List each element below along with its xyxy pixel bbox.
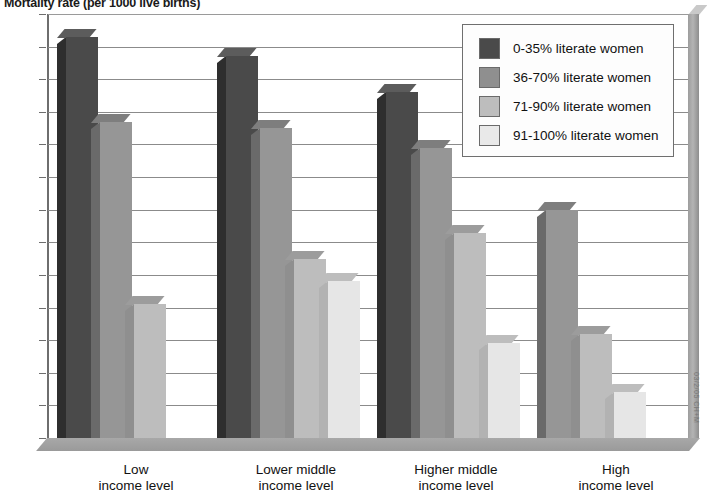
bar — [328, 281, 360, 438]
plot-floor — [36, 438, 700, 451]
bar — [134, 304, 166, 438]
y-tick-mark — [39, 14, 46, 15]
legend-swatch — [479, 38, 500, 59]
legend-item: 91-100% literate women — [479, 121, 673, 150]
bar-side — [125, 304, 134, 445]
x-axis-label-line: Higher middle — [371, 462, 541, 478]
bar-side — [217, 56, 226, 445]
x-axis-label-line: income level — [51, 478, 221, 493]
x-axis-label: Highincome level — [531, 462, 701, 493]
bar — [614, 392, 646, 438]
bar-face — [614, 392, 646, 438]
y-axis-line — [47, 14, 49, 438]
legend-label: 91-100% literate women — [513, 128, 659, 143]
y-tick-mark — [39, 177, 46, 178]
x-axis-label-line: income level — [371, 478, 541, 493]
legend-label: 0-35% literate women — [513, 41, 644, 56]
x-axis-label: Lower middleincome level — [211, 462, 381, 493]
legend-swatch — [479, 125, 500, 146]
chart-title: Mortality rate (per 1000 live births) — [4, 0, 200, 10]
bar-side — [479, 343, 488, 445]
x-axis-label-line: income level — [531, 478, 701, 493]
y-tick-mark — [39, 340, 46, 341]
x-axis-label-line: High — [531, 462, 701, 478]
bar-face — [488, 343, 520, 438]
bar-side — [251, 128, 260, 445]
legend-item: 36-70% literate women — [479, 63, 673, 92]
x-axis-label-line: income level — [211, 478, 381, 493]
y-tick-mark — [39, 79, 46, 80]
y-tick-mark — [39, 242, 46, 243]
bar-side — [319, 281, 328, 445]
bar-side — [571, 334, 580, 445]
bar-group — [226, 14, 386, 438]
legend-label: 36-70% literate women — [513, 70, 651, 85]
bar-side — [91, 122, 100, 445]
bar-side — [411, 148, 420, 445]
y-tick-mark — [39, 405, 46, 406]
y-tick-mark — [39, 308, 46, 309]
x-axis-label-line: Lower middle — [211, 462, 381, 478]
legend-swatch — [479, 67, 500, 88]
y-tick-mark — [39, 373, 46, 374]
y-tick-mark — [39, 144, 46, 145]
legend-label: 71-90% literate women — [513, 99, 651, 114]
credit-text: 03/2/05 CH+M — [693, 372, 700, 423]
y-tick-mark — [39, 210, 46, 211]
bar-side — [285, 259, 294, 445]
bar-side — [57, 37, 66, 445]
x-axis-label: Higher middleincome level — [371, 462, 541, 493]
legend-swatch — [479, 96, 500, 117]
bar-side — [377, 92, 386, 445]
bar-face — [134, 304, 166, 438]
y-tick-mark — [39, 112, 46, 113]
bar — [488, 343, 520, 438]
bar-group — [66, 14, 226, 438]
legend-item: 0-35% literate women — [479, 34, 673, 63]
bar-side — [445, 233, 454, 446]
y-tick-mark — [39, 275, 46, 276]
x-axis-label: Lowincome level — [51, 462, 221, 493]
x-axis-label-line: Low — [51, 462, 221, 478]
chart-legend: 0-35% literate women36-70% literate wome… — [462, 24, 674, 157]
y-tick-mark — [39, 47, 46, 48]
bar-side — [537, 210, 546, 445]
bar-face — [328, 281, 360, 438]
legend-item: 71-90% literate women — [479, 92, 673, 121]
